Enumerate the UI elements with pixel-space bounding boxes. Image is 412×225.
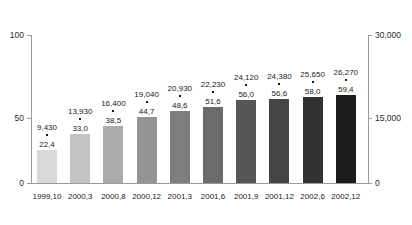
value-marker-dot (179, 95, 181, 97)
bar (303, 97, 323, 183)
bar (336, 95, 356, 183)
value-marker-dot (278, 83, 280, 85)
left-axis-label-0: 0 (0, 179, 24, 188)
right-axis-label-30000: 30,000 (375, 31, 401, 40)
value-marker-dot (46, 134, 48, 136)
left-axis-tick-100 (27, 35, 31, 36)
bar (236, 100, 256, 183)
category-label: 2002,12 (326, 192, 366, 201)
right-axis-tick-30000 (368, 35, 372, 36)
left-axis-line (31, 35, 32, 183)
right-axis-line (368, 35, 369, 183)
value-marker-dot (146, 101, 148, 103)
bar-total-label: 26,270 (323, 68, 369, 77)
bar (37, 150, 57, 183)
left-axis-tick-50 (27, 118, 31, 119)
value-marker-dot (345, 79, 347, 81)
value-marker-dot (312, 81, 314, 83)
left-axis-label-100: 100 (0, 31, 24, 40)
right-axis-tick-15000 (368, 118, 372, 119)
value-marker-dot (245, 84, 247, 86)
bar-percent-label: 59,4 (323, 85, 369, 94)
right-axis-tick-0 (368, 183, 372, 184)
bar (70, 134, 90, 183)
bar-percent-label: 22,4 (24, 140, 70, 149)
right-axis-label-15000: 15,000 (375, 114, 401, 123)
bar-percent-label: 38,5 (90, 116, 136, 125)
value-marker-dot (112, 110, 114, 112)
baseline-axis (31, 183, 368, 184)
value-marker-dot (212, 91, 214, 93)
right-axis-label-0: 0 (375, 179, 380, 188)
left-axis-label-50: 50 (0, 114, 24, 123)
bar (170, 111, 190, 183)
bar (137, 117, 157, 183)
bar (269, 99, 289, 183)
bar-total-label: 13,930 (57, 107, 103, 116)
bar (103, 126, 123, 183)
bar (203, 107, 223, 183)
bar-percent-label: 33,0 (57, 124, 103, 133)
dual-axis-bar-chart: 100 50 0 30,000 15,000 0 22,49,4301999,1… (0, 0, 412, 225)
value-marker-dot (79, 118, 81, 120)
